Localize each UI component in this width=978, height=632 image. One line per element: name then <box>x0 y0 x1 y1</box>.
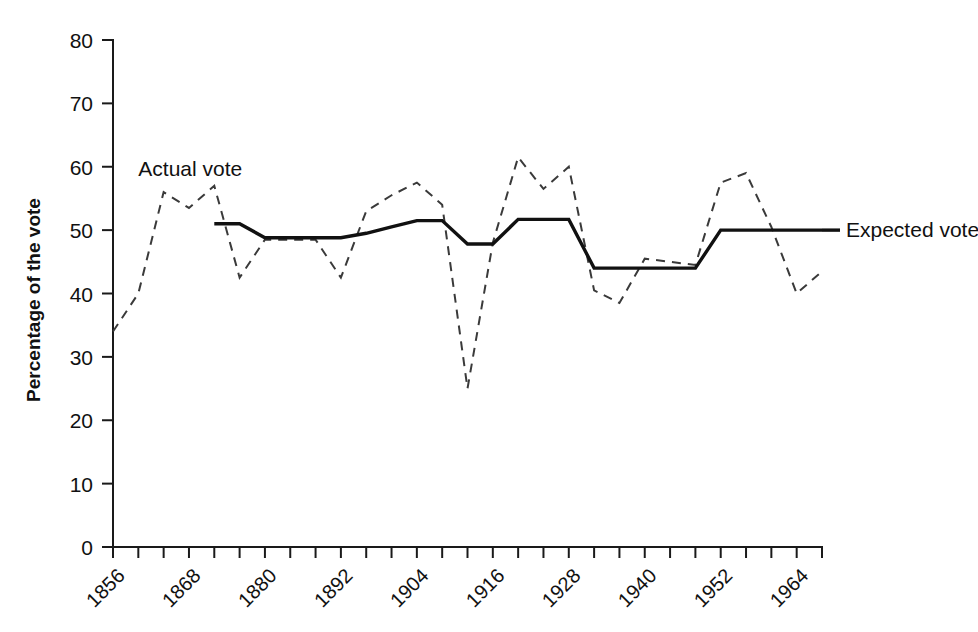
y-axis-tick-label: 40 <box>70 283 93 306</box>
vote-percentage-line-chart: 01020304050607080 1856186818801892190419… <box>0 0 978 632</box>
x-axis-tick-label: 1916 <box>462 564 509 611</box>
y-axis-tick-label: 20 <box>70 409 93 432</box>
y-axis-tick-label: 70 <box>70 92 93 115</box>
y-axis-tick-labels: 01020304050607080 <box>70 29 93 559</box>
x-axis-tick-label: 1904 <box>386 564 433 611</box>
chart-container: 01020304050607080 1856186818801892190419… <box>0 0 978 632</box>
x-axis-tick-label: 1964 <box>765 564 812 611</box>
x-axis-tick-label: 1928 <box>538 564 585 611</box>
x-axis-tick-labels: 1856186818801892190419161928194019521964 <box>82 564 813 611</box>
x-axis-tick-label: 1892 <box>310 564 357 611</box>
x-axis-tick-label: 1856 <box>82 564 129 611</box>
y-axis-title: Percentage of the vote <box>23 198 44 402</box>
x-axis-tick-label: 1868 <box>158 564 205 611</box>
x-axis-tick-label: 1952 <box>690 564 737 611</box>
y-axis-tick-label: 30 <box>70 346 93 369</box>
series-label-expected-vote: Expected vote <box>846 218 978 241</box>
y-axis <box>102 40 113 547</box>
x-axis-tick-label: 1880 <box>234 564 281 611</box>
x-axis <box>113 547 822 558</box>
series-line-expected-vote <box>214 219 822 268</box>
series-line-actual-vote <box>113 157 822 388</box>
x-axis-tick-label: 1940 <box>614 564 661 611</box>
series-label-actual-vote: Actual vote <box>138 157 242 180</box>
y-axis-tick-label: 50 <box>70 219 93 242</box>
y-axis-tick-label: 60 <box>70 156 93 179</box>
y-axis-tick-label: 0 <box>81 536 93 559</box>
y-axis-tick-label: 10 <box>70 473 93 496</box>
y-axis-tick-label: 80 <box>70 29 93 52</box>
